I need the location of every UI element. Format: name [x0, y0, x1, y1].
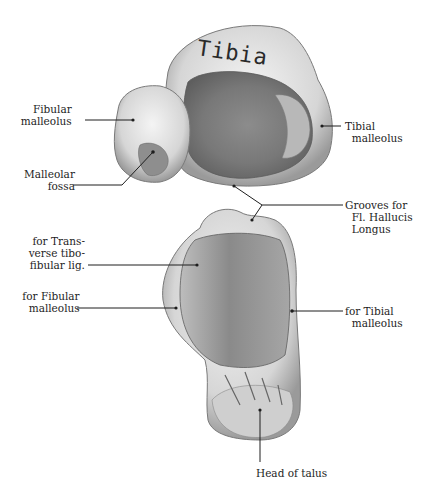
label-fibular-malleolus: Fibular malleolus: [14, 103, 72, 127]
talus-bone: [163, 209, 301, 440]
label-tibial-malleolus: Tibial malleolus: [345, 120, 403, 144]
label-transverse-tibiofibular-lig: for Trans- verse tibo- fibular lig.: [22, 235, 85, 271]
label-for-tibial-malleolus: for Tibial malleolus: [345, 305, 403, 329]
anatomy-figure: Tibia Fibular malleolus Malleolar fossa …: [0, 0, 445, 504]
label-for-fibular-malleolus: for Fibular malleolus: [22, 290, 80, 314]
label-grooves-fl-hallucis-longus: Grooves for Fl. Hallucis Longus: [345, 199, 413, 235]
label-head-of-talus: Head of talus: [256, 467, 327, 479]
label-malleolar-fossa: Malleolar fossa: [24, 168, 75, 192]
fibula-bone: [114, 86, 190, 183]
